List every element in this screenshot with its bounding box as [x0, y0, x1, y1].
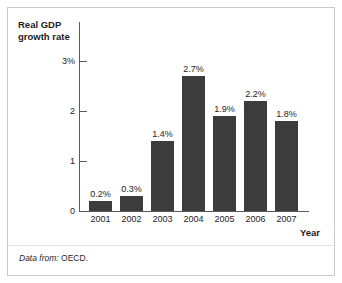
bar-slot: 0.2% [85, 22, 116, 211]
bar-value-label: 1.8% [267, 109, 306, 119]
footer-divider [8, 245, 334, 246]
bar-value-label: 1.9% [205, 104, 244, 114]
bar[interactable] [213, 116, 236, 211]
bar-slot: 1.4% [147, 22, 178, 211]
y-axis-tick-label: 3% [35, 57, 75, 66]
bar-group: 0.2%0.3%1.4%2.7%1.9%2.2%1.8% [79, 22, 309, 211]
bar-value-label: 2.2% [236, 89, 275, 99]
plot-area: Real GDP growth rate 0123% 0.2%0.3%1.4%2… [0, 0, 342, 283]
bar[interactable] [275, 121, 298, 211]
y-axis-tick [80, 211, 87, 212]
bar[interactable] [244, 101, 267, 211]
bar-value-label: 0.3% [112, 184, 151, 194]
y-axis-title: Real GDP growth rate [18, 19, 80, 43]
bar-value-label: 2.7% [174, 64, 213, 74]
y-axis-tick-label: 0 [35, 207, 75, 216]
y-axis-tick-label: 1 [35, 157, 75, 166]
x-axis-tick-label: 2007 [267, 214, 306, 224]
bar[interactable] [151, 141, 174, 211]
x-axis-title: Year [236, 227, 320, 238]
bar-slot: 1.9% [209, 22, 240, 211]
bar[interactable] [120, 196, 143, 211]
source-value: OECD. [61, 253, 88, 263]
bar-slot: 1.8% [271, 22, 302, 211]
bar[interactable] [182, 76, 205, 211]
bar[interactable] [89, 201, 112, 211]
source-label: Data from: [19, 253, 59, 263]
y-axis-tick-label: 2 [35, 107, 75, 116]
x-axis-line [79, 211, 309, 212]
bar-slot: 0.3% [116, 22, 147, 211]
bar-slot: 2.7% [178, 22, 209, 211]
source-note: Data from: OECD. [19, 253, 88, 263]
chart-figure: Real GDP growth rate 0123% 0.2%0.3%1.4%2… [0, 0, 342, 283]
bar-value-label: 1.4% [143, 129, 182, 139]
